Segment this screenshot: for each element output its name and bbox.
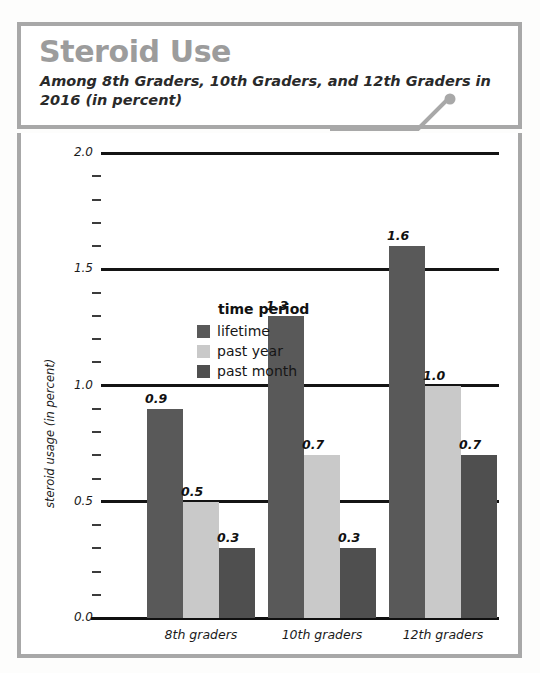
header-panel: Steroid Use Among 8th Graders, 10th Grad… xyxy=(17,22,522,129)
y-minor-tick xyxy=(92,315,101,317)
bar-past-month-8th-graders[interactable] xyxy=(219,548,255,618)
bar-past-year-8th-graders[interactable] xyxy=(183,502,219,618)
x-axis-group-label: 12th graders xyxy=(369,627,517,642)
bar-lifetime-8th-graders[interactable] xyxy=(147,409,183,618)
legend-title: time period xyxy=(218,301,309,317)
y-tick-label: 1.5 xyxy=(59,261,93,275)
y-minor-tick xyxy=(92,175,101,177)
bar-past-month-12th-graders[interactable] xyxy=(461,455,497,618)
y-minor-tick xyxy=(92,431,101,433)
chart-page: Steroid Use Among 8th Graders, 10th Grad… xyxy=(0,0,540,673)
legend-swatch-lifetime xyxy=(197,325,210,338)
bar-past-month-10th-graders[interactable] xyxy=(340,548,376,618)
y-minor-tick xyxy=(92,594,101,596)
bar-lifetime-12th-graders[interactable] xyxy=(389,246,425,618)
legend-label-past-year: past year xyxy=(217,343,283,359)
y-minor-tick xyxy=(92,478,101,480)
y-tick-label: 0.5 xyxy=(59,494,93,508)
page-subtitle: Among 8th Graders, 10th Graders, and 12t… xyxy=(40,72,510,110)
bar-value-label: 0.7 xyxy=(459,437,481,452)
y-minor-tick xyxy=(92,361,101,363)
y-minor-tick xyxy=(92,547,101,549)
bar-value-label: 0.9 xyxy=(145,391,167,406)
y-minor-tick xyxy=(92,222,101,224)
y-minor-tick xyxy=(92,524,101,526)
gridline xyxy=(101,268,499,271)
y-minor-tick xyxy=(92,454,101,456)
bar-past-year-12th-graders[interactable] xyxy=(425,386,461,619)
bar-value-label: 1.0 xyxy=(423,368,445,383)
legend-swatch-past-month xyxy=(197,365,210,378)
legend-item-lifetime[interactable]: lifetime xyxy=(197,323,309,339)
page-title: Steroid Use xyxy=(39,34,231,69)
bar-value-label: 0.3 xyxy=(217,530,239,545)
chart-panel: 0.00.51.01.52.0steroid usage (in percent… xyxy=(17,133,522,658)
y-minor-tick xyxy=(92,292,101,294)
legend-item-past-month[interactable]: past month xyxy=(197,363,309,379)
y-minor-tick xyxy=(92,408,101,410)
bar-value-label: 1.6 xyxy=(387,228,409,243)
y-minor-tick xyxy=(92,338,101,340)
y-tick-label: 1.0 xyxy=(59,378,93,392)
y-tick-label: 2.0 xyxy=(59,145,93,159)
legend-label-lifetime: lifetime xyxy=(217,323,270,339)
y-tick-label: 0.0 xyxy=(59,610,93,624)
chart-legend: time period lifetime past year past mont… xyxy=(197,301,309,383)
y-minor-tick xyxy=(92,571,101,573)
bar-value-label: 0.3 xyxy=(338,530,360,545)
bar-value-label: 0.5 xyxy=(181,484,203,499)
legend-label-past-month: past month xyxy=(217,363,297,379)
y-axis-label: steroid usage (in percent) xyxy=(43,359,57,508)
y-minor-tick xyxy=(92,199,101,201)
plot-area: 0.00.51.01.52.0steroid usage (in percent… xyxy=(21,133,518,654)
legend-item-past-year[interactable]: past year xyxy=(197,343,309,359)
gridline xyxy=(101,152,499,155)
bar-value-label: 0.7 xyxy=(302,437,324,452)
legend-swatch-past-year xyxy=(197,345,210,358)
bar-past-year-10th-graders[interactable] xyxy=(304,455,340,618)
y-minor-tick xyxy=(92,245,101,247)
